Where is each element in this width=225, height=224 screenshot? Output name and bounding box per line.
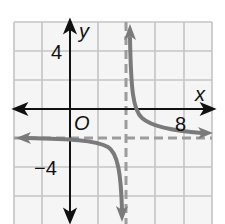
y-tick-label-4: 4 (51, 41, 62, 63)
origin-label: O (74, 112, 90, 134)
y-axis-label: y (77, 20, 90, 42)
y-tick-label-neg4: −4 (34, 157, 57, 179)
x-tick-label-8: 8 (175, 113, 186, 135)
graph: y x O 8 4 −4 (0, 0, 225, 224)
x-axis-label: x (194, 83, 206, 105)
